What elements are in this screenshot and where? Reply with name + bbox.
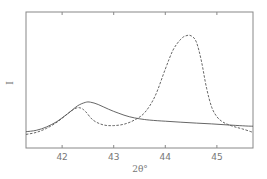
x-tick-label-43: 43 <box>108 152 119 162</box>
x-tick-label-45: 45 <box>211 152 222 162</box>
x-axis-label: 2θ° <box>132 164 148 174</box>
y-axis-label: I <box>5 81 15 85</box>
x-tick-label-44: 44 <box>160 152 172 162</box>
x-tick-label-42: 42 <box>56 152 67 162</box>
chart: 42434445 2θ° I <box>0 0 267 179</box>
plot-frame <box>26 12 253 148</box>
series-line-dashed <box>26 35 253 134</box>
